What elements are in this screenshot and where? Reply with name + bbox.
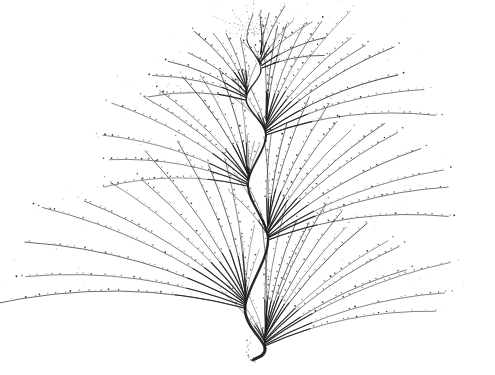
fan-right — [220, 197, 459, 346]
fractal-plant-svg — [0, 0, 495, 375]
apex-tuft — [214, 0, 284, 36]
fan-left — [0, 135, 259, 308]
fan-right — [231, 6, 443, 135]
speckle-layer — [1, 0, 464, 327]
fractal-plant-figure — [0, 0, 495, 375]
fan-right — [243, 3, 328, 68]
fan-left — [96, 70, 260, 187]
